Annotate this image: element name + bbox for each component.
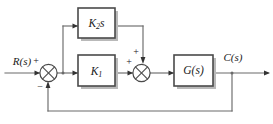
block-diagram-canvas: K2s K1 G(s) R(s) C(s) + − + + (0, 0, 273, 124)
plant-block-label: G(s) (183, 64, 204, 77)
arrowhead-into-k1 (73, 71, 79, 76)
reference-input-label: R(s) (12, 55, 32, 68)
arrowhead-into-summer-2-left (128, 71, 134, 76)
summer-2-plus-sign-top: + (133, 46, 139, 57)
arrowhead-into-k2s (73, 24, 79, 29)
arrowhead-into-plant (169, 71, 175, 76)
block-diagram-svg: K2s K1 G(s) R(s) C(s) + − + + (0, 0, 273, 124)
arrowhead-into-summer-1 (35, 71, 41, 76)
summer-1-plus-sign: + (33, 55, 39, 66)
summer-2-plus-sign-left: + (126, 56, 132, 67)
output-signal-label: C(s) (224, 51, 243, 64)
summer-1-minus-sign: − (37, 81, 43, 92)
arrowhead-into-summer-2-top (141, 57, 146, 64)
arrowhead-output (264, 71, 270, 76)
